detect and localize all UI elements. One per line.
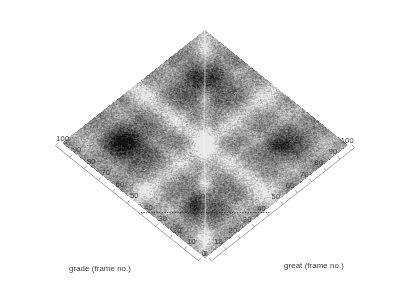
left-tick-20: 20 bbox=[173, 225, 182, 234]
right-tick-20: 20 bbox=[229, 226, 238, 235]
right-tick-100: 100 bbox=[341, 135, 354, 144]
right-tick-10: 10 bbox=[214, 237, 223, 246]
left-tick-30: 30 bbox=[158, 214, 167, 223]
right-tick-70: 70 bbox=[300, 169, 309, 178]
right-tick-80: 80 bbox=[314, 158, 323, 167]
right-tick-90: 90 bbox=[329, 147, 338, 156]
right-tick-50: 50 bbox=[271, 192, 280, 201]
axis-tick-marks bbox=[56, 143, 355, 261]
left-tick-100: 100 bbox=[56, 133, 69, 142]
left-axis-title: grade (frame no.) bbox=[69, 264, 131, 273]
right-tick-30: 30 bbox=[243, 214, 252, 223]
left-tick-70: 70 bbox=[101, 168, 110, 177]
left-tick-10: 10 bbox=[187, 237, 196, 246]
axis-lines bbox=[56, 146, 355, 261]
left-tick-40: 40 bbox=[144, 202, 153, 211]
figure-root: 0102030405060708090100 01020304050607080… bbox=[0, 0, 402, 301]
left-tick-80: 80 bbox=[87, 156, 96, 165]
right-axis-title: great (frame no.) bbox=[284, 261, 344, 270]
left-tick-60: 60 bbox=[116, 179, 125, 188]
axes bbox=[0, 0, 402, 301]
right-tick-0: 0 bbox=[202, 248, 206, 257]
left-tick-50: 50 bbox=[130, 191, 139, 200]
right-tick-40: 40 bbox=[257, 203, 266, 212]
right-tick-60: 60 bbox=[286, 180, 295, 189]
left-tick-90: 90 bbox=[73, 145, 82, 154]
